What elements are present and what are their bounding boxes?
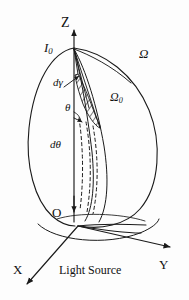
axis-label-x: X (13, 263, 22, 276)
figure-caption: Light Source (59, 264, 121, 276)
axis-label-origin: O (52, 206, 61, 219)
axis-label-z: Z (61, 16, 70, 30)
label-solid-angle-omega: Ω (139, 47, 148, 60)
envelope-outline-left (28, 48, 75, 226)
label-incident-intensity: I0 (44, 41, 53, 56)
envelope-outline-right (74, 48, 157, 227)
label-solid-angle-omega0: Ω0 (110, 91, 123, 105)
label-d-gamma: dγ (53, 77, 63, 88)
dashed-meridian-1 (79, 118, 83, 210)
label-d-theta: dθ (50, 139, 61, 150)
axis-label-y: Y (159, 258, 168, 271)
figure-canvas: Z I0 Ω Ω0 dγ θ dθ O X Y Light Source (0, 0, 189, 300)
base-fan-1 (78, 226, 141, 233)
omega0-subscript: 0 (119, 96, 123, 105)
y-axis (78, 226, 170, 247)
dashed-meridian-group (79, 118, 97, 214)
label-theta: θ (65, 102, 70, 113)
light-source-solid-angle-diagram (0, 0, 189, 300)
intensity-subscript: 0 (48, 46, 52, 56)
omega0-symbol: Ω (110, 90, 119, 104)
